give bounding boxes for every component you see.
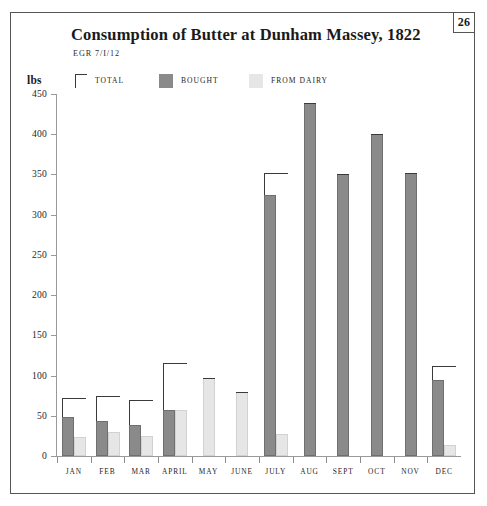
total-bracket (337, 174, 349, 175)
x-axis-tick (91, 457, 92, 463)
y-axis-tick-label: 400 (15, 128, 47, 140)
y-axis-tick (51, 94, 57, 95)
total-bracket (304, 103, 316, 104)
total-bracket (432, 366, 456, 380)
y-axis-tick-label-text: 150 (19, 329, 47, 340)
total-bracket (163, 363, 187, 410)
y-axis-tick-label-text: 250 (19, 249, 47, 260)
x-axis-tick (394, 457, 395, 463)
y-axis-tick (51, 134, 57, 135)
bar-bought (62, 417, 74, 456)
y-axis-tick-label: 350 (15, 168, 47, 180)
x-axis-tick (158, 457, 159, 463)
bar-bought (304, 103, 316, 456)
x-axis-tick (225, 457, 226, 463)
y-axis-tick (51, 295, 57, 296)
bar-from-dairy (74, 437, 86, 456)
y-axis-tick-label-text: 300 (19, 209, 47, 220)
y-axis-tick-label: 50 (15, 410, 47, 422)
y-axis-tick-label-text: 450 (19, 88, 47, 99)
x-axis-tick (57, 457, 58, 463)
total-bracket (264, 173, 288, 195)
bar-bought (371, 134, 383, 456)
y-axis-tick-label: 100 (15, 370, 47, 382)
x-axis-tick-label: DEC (420, 467, 468, 476)
plot-area: 450400350300250200150100500 JANFEBMARAPR… (11, 13, 476, 495)
bar-bought (264, 195, 276, 456)
y-axis-tick (51, 376, 57, 377)
y-axis-tick-label: 250 (15, 249, 47, 261)
y-axis-tick-label: 0 (15, 450, 47, 462)
x-axis-tick (124, 457, 125, 463)
y-axis-tick-label: 150 (15, 329, 47, 341)
y-axis-tick (51, 416, 57, 417)
y-axis-tick-label-text: 400 (19, 128, 47, 139)
y-axis-tick-label: 200 (15, 289, 47, 301)
bar-from-dairy (203, 378, 215, 456)
x-axis-tick (259, 457, 260, 463)
y-axis-tick (51, 335, 57, 336)
total-bracket (236, 392, 248, 393)
bar-bought (405, 173, 417, 456)
y-axis-tick-label-text: 50 (19, 410, 47, 421)
x-axis-tick (326, 457, 327, 463)
x-axis-tick (293, 457, 294, 463)
y-axis-tick-label: 450 (15, 88, 47, 100)
total-bracket (371, 134, 383, 135)
bar-from-dairy (444, 445, 456, 456)
bar-bought (337, 174, 349, 456)
x-axis-tick (427, 457, 428, 463)
y-axis-tick-label-text: 200 (19, 289, 47, 300)
x-axis-tick (192, 457, 193, 463)
total-bracket (96, 396, 120, 420)
y-axis-tick-label-text: 0 (19, 450, 47, 461)
bar-bought (163, 410, 175, 456)
y-axis-tick-label-text: 100 (19, 370, 47, 381)
bar-from-dairy (276, 434, 288, 456)
total-bracket (405, 173, 417, 174)
total-bracket (129, 400, 153, 426)
figure-frame: 26 Consumption of Butter at Dunham Masse… (10, 12, 475, 494)
bar-from-dairy (236, 392, 248, 456)
y-axis-tick (51, 215, 57, 216)
total-bracket (62, 398, 86, 417)
x-axis-tick (360, 457, 361, 463)
bar-from-dairy (141, 436, 153, 456)
bar-bought (432, 380, 444, 456)
bar-bought (96, 421, 108, 456)
bar-from-dairy (175, 410, 187, 456)
y-axis-line (56, 94, 57, 457)
total-bracket (203, 378, 215, 379)
y-axis-tick (51, 174, 57, 175)
y-axis-tick-label: 300 (15, 209, 47, 221)
y-axis-tick (51, 255, 57, 256)
bar-bought (129, 425, 141, 456)
y-axis-tick-label-text: 350 (19, 168, 47, 179)
bar-from-dairy (108, 432, 120, 456)
